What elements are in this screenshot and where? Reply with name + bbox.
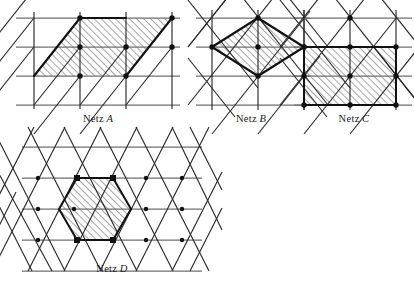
net-c-lattice xyxy=(300,10,408,110)
net-a-lattice xyxy=(14,10,182,110)
figure-root: NetzA xyxy=(0,0,414,295)
net-panel-a xyxy=(14,10,182,110)
net-panel-b xyxy=(200,10,310,110)
caption-netz-a-letter: A xyxy=(104,113,113,124)
caption-netz-d-prefix: Netz xyxy=(96,263,117,274)
net-panel-d xyxy=(22,152,202,260)
caption-netz-d: NetzD xyxy=(22,263,202,274)
net-b-vertical-lines xyxy=(212,10,304,110)
caption-netz-c: NetzC xyxy=(304,113,404,124)
caption-netz-c-prefix: Netz xyxy=(339,113,360,124)
net-b-lattice xyxy=(200,10,310,110)
caption-netz-a-prefix: Netz xyxy=(83,113,104,124)
net-panel-c xyxy=(300,10,408,110)
caption-netz-d-letter: D xyxy=(117,263,127,274)
caption-netz-b-letter: B xyxy=(257,113,266,124)
caption-netz-c-letter: C xyxy=(360,113,370,124)
net-d-lattice xyxy=(22,152,202,260)
net-d-horizontal-lines xyxy=(22,147,202,271)
caption-netz-a: NetzA xyxy=(14,113,182,124)
caption-netz-b-prefix: Netz xyxy=(236,113,257,124)
caption-netz-b: NetzB xyxy=(196,113,306,124)
